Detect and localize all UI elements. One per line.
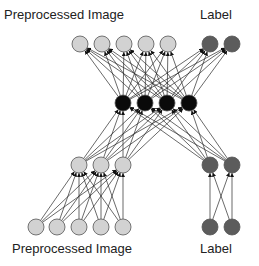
connection-arrow xyxy=(194,50,228,96)
connections xyxy=(41,48,232,223)
input-image-node xyxy=(93,219,109,235)
input-image-node xyxy=(71,219,87,235)
shared-hidden-node xyxy=(181,95,197,111)
connection-arrow xyxy=(128,110,163,159)
shared-hidden-node xyxy=(137,95,153,111)
output-image-node xyxy=(138,36,154,52)
input-label-node xyxy=(224,219,240,235)
connection-arrow xyxy=(41,172,75,221)
shared-hidden-node xyxy=(159,95,175,111)
network-diagram: Preprocessed Image Label Preprocessed Im… xyxy=(0,0,259,266)
output-label-node xyxy=(224,36,240,52)
connection-arrow xyxy=(172,50,206,96)
output-image-node xyxy=(160,36,176,52)
shared-hidden-node xyxy=(115,95,131,111)
connection-arrow xyxy=(85,50,119,96)
output-image-node xyxy=(116,36,132,52)
bottom-label-label: Label xyxy=(200,241,232,256)
input-image-node xyxy=(28,219,44,235)
top-image-label: Preprocessed Image xyxy=(4,7,124,22)
connection-arrow xyxy=(42,171,95,222)
connection-arrow xyxy=(84,110,119,159)
connection-arrow xyxy=(86,49,139,97)
hidden-image-node xyxy=(71,157,87,173)
input-image-node xyxy=(115,219,131,235)
connection-arrow xyxy=(126,111,143,158)
bottom-image-label: Preprocessed Image xyxy=(12,241,132,256)
connection-arrow xyxy=(194,110,228,159)
connection-arrow xyxy=(130,49,183,97)
output-image-node xyxy=(94,36,110,52)
connection-arrow xyxy=(151,49,204,97)
output-label-node xyxy=(202,36,218,52)
hidden-image-node xyxy=(93,157,109,173)
hidden-label-node xyxy=(224,157,240,173)
connection-arrow xyxy=(152,108,226,161)
hidden-label-node xyxy=(202,157,218,173)
input-image-node xyxy=(49,219,65,235)
top-label-label: Label xyxy=(200,7,232,22)
output-image-node xyxy=(72,36,88,52)
input-label-node xyxy=(202,219,218,235)
connection-arrow xyxy=(129,108,183,159)
connection-arrow xyxy=(60,173,77,220)
connection-arrow xyxy=(173,109,226,160)
hidden-image-node xyxy=(115,157,131,173)
connection-arrow xyxy=(104,111,121,158)
